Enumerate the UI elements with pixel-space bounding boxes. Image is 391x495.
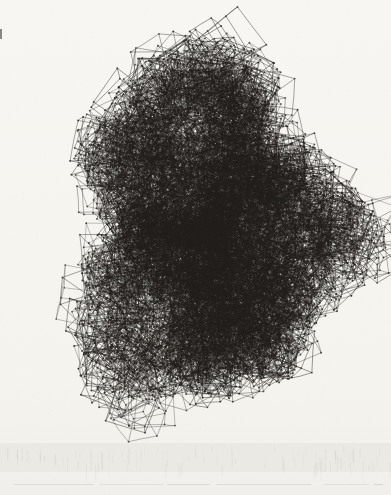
- scanned-artwork-page: [0, 0, 391, 495]
- cube-cluster-artwork: [0, 0, 391, 495]
